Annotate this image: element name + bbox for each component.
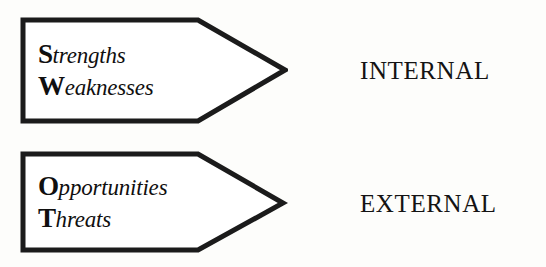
arrow-external-shape (20, 150, 288, 255)
arrow-external: Opportunities Threats (20, 150, 288, 255)
caption-internal: INTERNAL (360, 57, 490, 85)
arrow-internal: Strengths Weaknesses (20, 16, 288, 126)
arrow-internal-shape (20, 16, 288, 126)
swot-diagram-canvas: Strengths Weaknesses INTERNAL Opportunit… (0, 0, 546, 267)
caption-external: EXTERNAL (360, 190, 497, 218)
